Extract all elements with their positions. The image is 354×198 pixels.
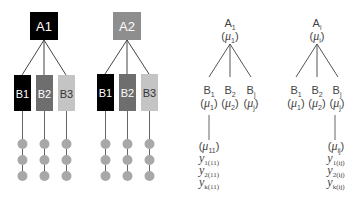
- observation-dot: [145, 171, 155, 181]
- nested-design-diagram: A1 B1 B2 B3 A2: [0, 0, 354, 198]
- observation-dot: [62, 139, 72, 149]
- symbolic-tree-ai: Ai (μi) B1 (μ1) B2 (μ2) Bj (μj) (μij) y1…: [287, 17, 345, 191]
- observation-dot: [40, 171, 50, 181]
- child-label-b1: B1: [16, 88, 29, 100]
- child-param: (μ1): [200, 96, 217, 111]
- observation-dot: [18, 171, 28, 181]
- observation-dot: [101, 171, 111, 181]
- edge-a2-b3: [127, 40, 149, 74]
- observation-dot: [123, 139, 133, 149]
- child-label-b2: B2: [121, 87, 134, 99]
- root-label-a2: A2: [119, 19, 135, 34]
- root-param: (μi): [310, 29, 325, 44]
- observation-dot: [123, 171, 133, 181]
- tree-a2: A2 B1 B2 B3: [97, 12, 158, 181]
- edge: [230, 44, 251, 77]
- edge: [317, 44, 338, 77]
- root-label-a1: A1: [36, 19, 52, 34]
- observation-dot: [40, 155, 50, 165]
- child-label-b3: B3: [143, 87, 156, 99]
- observation-dot: [18, 155, 28, 165]
- observation-dot: [62, 171, 72, 181]
- child-param: (μj): [244, 96, 259, 112]
- observation-dot: [18, 139, 28, 149]
- edge: [209, 44, 230, 77]
- edge: [296, 44, 317, 77]
- child-param: (μ1): [287, 96, 304, 111]
- observation-dot: [145, 155, 155, 165]
- observation-dots: [18, 139, 72, 181]
- symbolic-tree-a1: A1 (μ1) B1 (μ1) B2 (μ2) Bj (μj) (μ11) y1…: [198, 17, 259, 191]
- child-param: (μ2): [221, 96, 238, 111]
- observation-dot: [101, 155, 111, 165]
- child-label-b1: B1: [99, 87, 112, 99]
- observation-dot: [145, 139, 155, 149]
- child-label-b3: B3: [60, 88, 73, 100]
- edge-a2-b1: [105, 40, 127, 74]
- root-param: (μ1): [221, 29, 238, 44]
- tree-a1: A1 B1 B2 B3: [14, 12, 75, 181]
- edge-a1-b3: [44, 40, 66, 75]
- observation-dots: [101, 139, 155, 181]
- child-param: (μj): [330, 96, 345, 112]
- edge-a1-b1: [22, 40, 44, 75]
- observation-dot: [40, 139, 50, 149]
- child-label-b2: B2: [38, 88, 51, 100]
- observation-dot: [62, 155, 72, 165]
- child-param: (μ2): [308, 96, 325, 111]
- observation-dot: [123, 155, 133, 165]
- observation-dot: [101, 139, 111, 149]
